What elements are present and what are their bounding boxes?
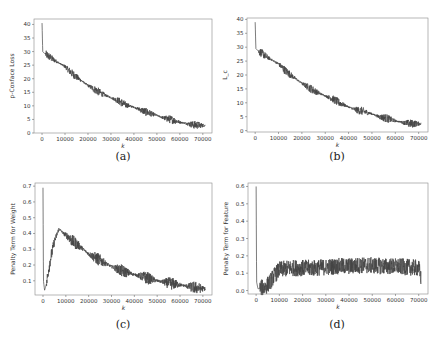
series-line [255,22,421,127]
y-tick-label: 0.6 [23,199,32,205]
y-tick-label: 0.3 [236,236,245,242]
chart-d: 0100002000030000400005000060000700000.00… [222,183,428,310]
y-tick-label: 0.3 [23,246,32,252]
y-tick-label: 0.6 [236,183,245,189]
axes-frame [34,19,212,133]
x-axis-label: k [122,304,126,311]
x-tick-label: 50000 [148,298,166,304]
x-tick-label: 10000 [270,135,288,141]
y-tick-label: 0.7 [23,183,32,189]
caption-d: (d) [307,318,367,331]
y-tick-label: 0.0 [236,288,245,294]
y-tick-label: 15 [24,89,31,95]
x-tick-label: 10000 [56,136,74,142]
x-tick-label: 10000 [57,298,75,304]
y-axis-label: p-Coxface Loss [8,53,16,98]
axes-frame [35,183,212,295]
y-tick-label: 0.2 [236,253,245,259]
y-tick-label: 40 [24,21,31,27]
y-tick-label: 0.1 [23,278,32,284]
chart-a: 0100002000030000400005000060000700000510… [8,19,212,149]
chart-c: 0100002000030000400005000060000700000.10… [9,183,212,311]
y-tick-label: 25 [24,62,31,68]
y-tick-label: 0 [27,130,31,136]
x-tick-label: 60000 [171,136,189,142]
y-tick-label: 35 [24,35,31,41]
y-axis-label: Penalty Term for Feature [222,202,230,276]
x-tick-label: 50000 [364,297,382,303]
y-tick-label: 0.1 [236,270,245,276]
x-tick-label: 0 [40,136,44,142]
x-tick-label: 40000 [340,297,358,303]
x-tick-label: 70000 [410,297,428,303]
x-tick-label: 30000 [102,136,120,142]
caption-a: (a) [93,150,153,163]
chart-b: 0100002000030000400005000060000700000510… [221,16,428,148]
x-tick-label: 60000 [387,297,405,303]
series-line [256,186,421,295]
y-tick-label: 35 [237,30,244,36]
y-tick-label: 5 [27,116,31,122]
x-tick-label: 40000 [126,298,144,304]
y-tick-label: 0.4 [23,230,32,236]
y-tick-label: 0.5 [236,201,245,207]
caption-b: (b) [307,150,367,163]
x-tick-label: 30000 [103,298,121,304]
y-tick-label: 20 [24,76,31,82]
x-tick-label: 50000 [148,136,166,142]
series-line [43,188,205,293]
y-tick-label: 0 [240,128,244,134]
x-tick-label: 70000 [410,135,428,141]
figure-canvas: 0100002000030000400005000060000700000510… [0,0,441,345]
y-tick-label: 20 [237,72,244,78]
y-tick-label: 0.2 [23,262,32,268]
x-tick-label: 10000 [271,297,289,303]
x-tick-label: 30000 [316,135,334,141]
x-tick-label: 0 [41,298,45,304]
axes-frame [247,18,428,132]
x-tick-label: 70000 [194,298,212,304]
y-tick-label: 30 [24,49,31,55]
axes-frame [248,183,428,294]
x-axis-label: k [336,303,340,310]
series-line [42,23,205,129]
x-tick-label: 70000 [194,136,212,142]
x-tick-label: 40000 [340,135,358,141]
y-tick-label: 15 [237,86,244,92]
caption-c: (c) [93,318,153,331]
x-tick-label: 60000 [387,135,405,141]
y-tick-label: 40 [237,16,244,22]
y-tick-label: 0.4 [236,218,245,224]
x-tick-label: 40000 [125,136,143,142]
x-tick-label: 20000 [293,135,311,141]
x-tick-label: 20000 [80,298,98,304]
y-tick-label: 25 [237,58,244,64]
x-tick-label: 0 [254,297,258,303]
y-axis-label: Penalty Term for Weight [9,203,17,275]
x-tick-label: 20000 [79,136,97,142]
y-tick-label: 0.5 [23,215,32,221]
y-axis-label: L_c [221,70,229,80]
x-axis-label: k [336,141,340,148]
x-tick-label: 30000 [317,297,335,303]
x-tick-label: 20000 [294,297,312,303]
x-tick-label: 0 [253,135,257,141]
x-tick-label: 60000 [171,298,189,304]
x-axis-label: k [121,142,125,149]
y-tick-label: 5 [240,114,244,120]
x-tick-label: 50000 [363,135,381,141]
figure: 0100002000030000400005000060000700000510… [0,0,441,345]
y-tick-label: 10 [237,100,244,106]
y-tick-label: 10 [24,103,31,109]
y-tick-label: 30 [237,44,244,50]
